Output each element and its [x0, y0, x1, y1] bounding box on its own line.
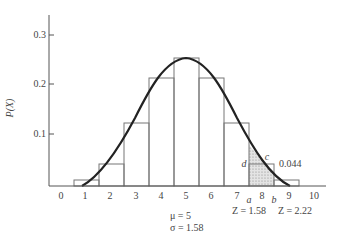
svg-text:0: 0	[59, 190, 64, 201]
shaded-area	[249, 145, 274, 186]
y-ticks: 0.3 0.2 0.1	[34, 29, 55, 139]
y-axis-label: P(X)	[4, 98, 16, 119]
svg-text:6: 6	[209, 190, 214, 201]
point-a-label: a	[247, 194, 252, 205]
sigma-label: σ = 1.58	[170, 222, 204, 233]
y-tick-label: 0.2	[34, 78, 47, 89]
svg-text:5: 5	[184, 190, 189, 201]
histogram-chart: P(X) 0.3 0.2 0.1 0 1 2 3 4 5 6 7 8 9	[0, 0, 338, 241]
svg-text:1: 1	[83, 190, 88, 201]
point-d-label: d	[242, 158, 248, 169]
point-c-label: c	[265, 151, 270, 162]
x-tick-labels: 0 1 2 3 4 5 6 7 8 9 10	[59, 190, 320, 201]
z-b-label: Z = 2.22	[278, 205, 312, 216]
svg-text:9: 9	[287, 190, 292, 201]
y-tick-label: 0.1	[34, 128, 47, 139]
bar-value-label: 0.044	[279, 158, 302, 169]
svg-text:2: 2	[108, 190, 113, 201]
svg-text:8: 8	[260, 190, 265, 201]
svg-text:4: 4	[159, 190, 164, 201]
svg-text:7: 7	[235, 190, 240, 201]
mu-label: μ = 5	[170, 210, 191, 221]
svg-text:10: 10	[309, 190, 319, 201]
z-a-label: Z = 1.58	[232, 205, 266, 216]
point-b-label: b	[272, 194, 277, 205]
svg-text:3: 3	[134, 190, 139, 201]
y-tick-label: 0.3	[34, 29, 47, 40]
